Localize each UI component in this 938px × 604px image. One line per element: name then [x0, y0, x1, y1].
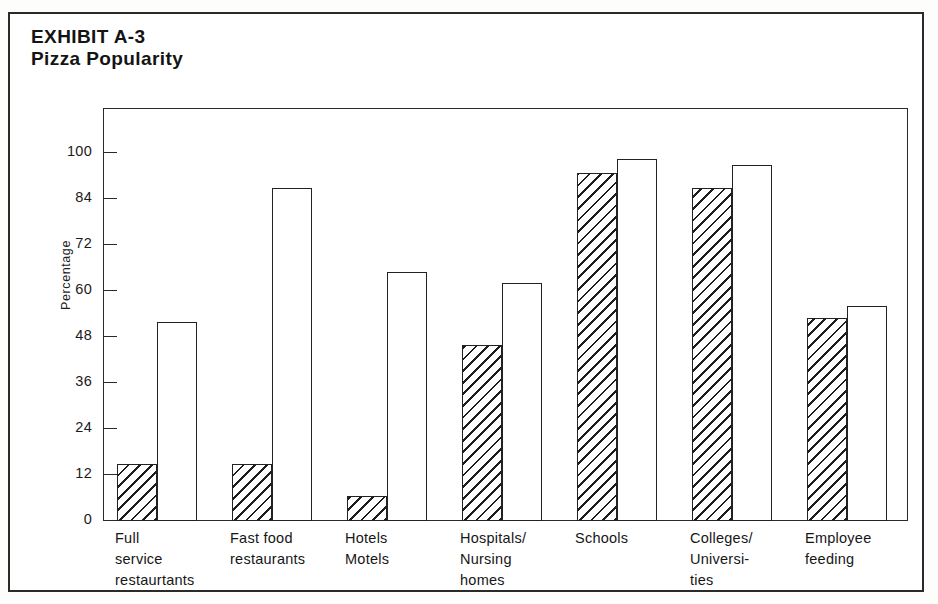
y-tick-mark — [103, 244, 117, 245]
category-label: Fast food restaurants — [230, 528, 339, 570]
y-tick-mark — [103, 382, 117, 383]
y-tick-mark — [103, 198, 117, 199]
y-tick-mark — [103, 290, 117, 291]
category-label: Schools — [575, 528, 684, 549]
y-tick-label: 72 — [48, 235, 92, 251]
y-tick-mark — [103, 474, 117, 475]
bar-open — [157, 322, 197, 521]
bar-hatched — [692, 188, 732, 522]
y-tick-label: 100 — [48, 143, 92, 159]
exhibit-title-block: EXHIBIT A-3 Pizza Popularity — [31, 26, 183, 71]
category-label: Full service restaurtants — [115, 528, 224, 591]
bar-hatched — [232, 464, 272, 522]
category-label: Hospitals/ Nursing homes — [460, 528, 569, 591]
y-tick-label: 84 — [48, 189, 92, 205]
y-tick-label: 36 — [48, 373, 92, 389]
bar-open — [502, 283, 542, 521]
exhibit-number: EXHIBIT A-3 — [31, 26, 183, 48]
bar-open — [272, 188, 312, 522]
y-tick-label: 48 — [48, 327, 92, 343]
bar-hatched — [577, 173, 617, 521]
y-tick-label: 0 — [48, 511, 92, 527]
category-label: Colleges/ Universi- ties — [690, 528, 799, 591]
y-axis-label: Percentage — [59, 205, 73, 345]
exhibit-figure: EXHIBIT A-3 Pizza Popularity Percentage … — [0, 0, 938, 604]
exhibit-title: Pizza Popularity — [31, 48, 183, 70]
y-tick-label: 12 — [48, 465, 92, 481]
bar-hatched — [117, 464, 157, 522]
bar-open — [617, 159, 657, 521]
bar-open — [732, 165, 772, 522]
y-tick-mark — [103, 428, 117, 429]
bar-open — [387, 272, 427, 521]
bar-hatched — [347, 496, 387, 521]
y-tick-mark — [103, 336, 117, 337]
y-tick-label: 24 — [48, 419, 92, 435]
y-tick-label: 60 — [48, 281, 92, 297]
y-tick-mark — [103, 152, 117, 153]
category-label: Employee feeding — [805, 528, 914, 570]
bar-hatched — [807, 318, 847, 521]
category-label: Hotels Motels — [345, 528, 454, 570]
bar-hatched — [462, 345, 502, 521]
bar-open — [847, 306, 887, 521]
